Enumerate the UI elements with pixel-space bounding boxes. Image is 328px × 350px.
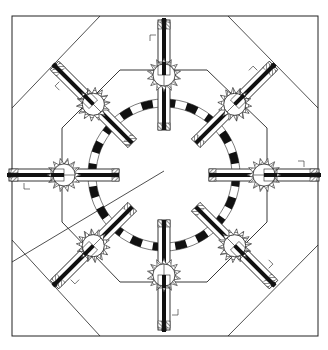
arms (7, 18, 321, 332)
label-tick (172, 309, 178, 315)
hatch-block (158, 22, 162, 29)
ring-segment (96, 142, 100, 152)
hub-core (51, 173, 64, 177)
hub-core (162, 62, 166, 75)
label-tick (150, 35, 156, 41)
hatch-block (112, 169, 119, 173)
arm-ne (184, 52, 287, 155)
arm-s (147, 220, 180, 332)
radial-plan-diagram (0, 0, 328, 350)
label-tick (24, 183, 30, 189)
hatch-block (166, 321, 170, 328)
label-tick (264, 260, 272, 268)
hatch-block (166, 123, 170, 130)
hatch-block (112, 177, 119, 181)
ring-segment (142, 104, 153, 107)
hatch-block (166, 22, 170, 29)
arm-w (7, 158, 119, 191)
label-tick (298, 161, 304, 167)
hatch-block (166, 220, 170, 227)
arm-e (209, 158, 321, 191)
ring-segment (228, 197, 232, 207)
arm-n (147, 18, 180, 130)
hatch-block (310, 169, 317, 173)
ring-segment (232, 153, 235, 164)
label-tick (71, 275, 79, 283)
hatch-block (209, 169, 216, 173)
ring-segment (186, 107, 196, 111)
label-tick (55, 82, 63, 90)
label-tick (249, 66, 257, 74)
hatch-block (209, 177, 216, 181)
hatch-block (11, 169, 18, 173)
hub-core (162, 275, 166, 288)
arm-nw (41, 52, 144, 155)
hatch-block (158, 123, 162, 130)
hatch-block (158, 220, 162, 227)
ring-segment (175, 243, 186, 246)
ring-segment (93, 186, 96, 197)
hatch-block (158, 321, 162, 328)
hatch-block (11, 177, 18, 181)
hub-core (264, 173, 277, 177)
ring-segment (131, 239, 141, 243)
hatch-block (310, 177, 317, 181)
